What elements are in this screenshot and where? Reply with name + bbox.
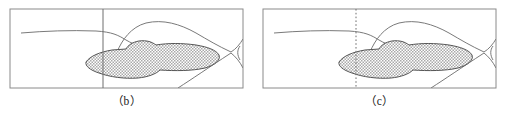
panel-b-caption: （b） [0,92,253,108]
figure-panel-row: （b） [0,0,506,115]
panel-c-caption: （c） [253,92,506,108]
panel-b: （b） [0,0,253,115]
panel-c: （c） [253,0,506,115]
